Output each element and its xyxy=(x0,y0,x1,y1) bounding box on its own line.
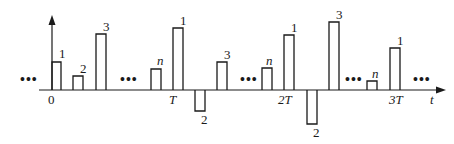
pulse-label: 1 xyxy=(59,46,66,61)
tick-label-3T: 3T xyxy=(388,92,404,107)
pulse-label: 1 xyxy=(291,20,298,35)
pulse-1-period-1 xyxy=(173,28,183,90)
tick-label-2T: 2T xyxy=(278,92,293,107)
ellipsis-icon: ••• xyxy=(345,72,363,87)
pulse-label: n xyxy=(157,53,164,68)
pulse-1-period-0 xyxy=(52,62,61,90)
pulse-label: 2 xyxy=(80,61,87,76)
pulse-2-period-2 xyxy=(307,90,317,124)
tick-label-T: T xyxy=(169,92,177,107)
ellipsis-icon: ••• xyxy=(120,72,138,87)
pulse-1-period-3 xyxy=(390,48,400,90)
pulse-train-diagram: 1 2 3 n 1 2 3 n 1 2 3 n 1 0 T 2T 3T t ••… xyxy=(0,0,454,144)
axis-labels: 0 T 2T 3T t xyxy=(48,92,434,107)
pulse-label: 2 xyxy=(201,112,208,127)
pulse-label: 2 xyxy=(313,125,320,140)
ellipsis-icon: ••• xyxy=(240,72,258,87)
pulse-n-period-1 xyxy=(262,68,272,90)
pulse-label: n xyxy=(372,66,379,81)
pulse-label: 1 xyxy=(180,13,187,28)
amplitude-axis-arrowhead-icon xyxy=(49,15,56,25)
t-axis-arrowhead-icon xyxy=(436,87,446,94)
pulse-label: 3 xyxy=(336,7,343,22)
pulse-2-period-0 xyxy=(73,76,83,90)
pulse-n-period-0 xyxy=(151,69,161,90)
pulse-2-period-1 xyxy=(195,90,205,111)
ellipsis-icon: ••• xyxy=(413,72,431,87)
pulse-3-period-0 xyxy=(96,34,106,90)
pulse-label: 3 xyxy=(224,47,231,62)
pulse-1-period-2 xyxy=(284,35,294,90)
pulse-3-period-2 xyxy=(329,22,339,90)
t-axis-label: t xyxy=(430,92,434,107)
pulse-label: 1 xyxy=(397,33,404,48)
ellipsis-icon: ••• xyxy=(20,72,38,87)
pulse-3-period-1 xyxy=(217,62,227,90)
pulse-label: 3 xyxy=(103,19,110,34)
pulse-n-period-2 xyxy=(367,81,377,90)
origin-label: 0 xyxy=(48,92,55,107)
pulse-label: n xyxy=(266,53,273,68)
